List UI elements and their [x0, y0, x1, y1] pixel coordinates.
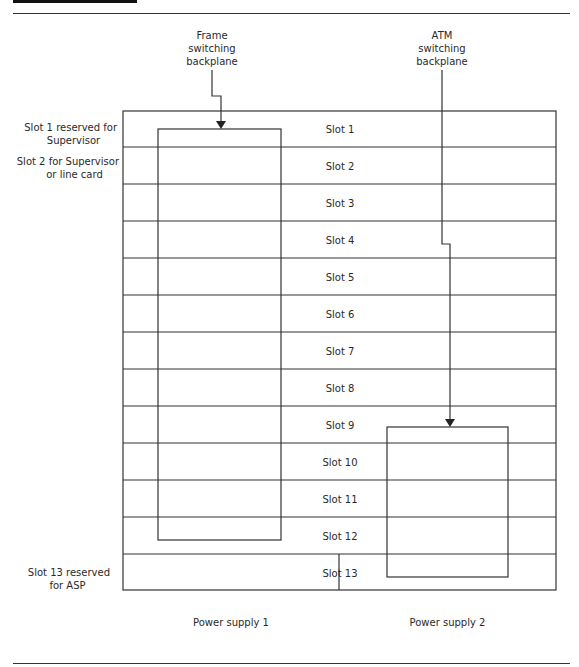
note-line: Slot 1 reserved for [0, 121, 117, 134]
frame-label-line: Frame [182, 29, 242, 42]
slot-label: Slot 1 [300, 123, 380, 136]
slot2-note: Slot 2 for Supervisor or line card [0, 155, 119, 181]
slot-label: Slot 10 [300, 456, 380, 469]
frame-backplane-label: Frame switching backplane [182, 29, 242, 68]
slot-label: Slot 12 [300, 530, 380, 543]
frame-label-line: backplane [182, 55, 242, 68]
slot-label: Slot 11 [300, 493, 380, 506]
note-line: for ASP [0, 579, 110, 592]
slot-label: Slot 8 [300, 382, 380, 395]
atm-backplane-label: ATM switching backplane [412, 29, 472, 68]
atm-connector-line [442, 70, 450, 420]
frame-arrow-icon [216, 121, 226, 129]
frame-backplane-box [158, 129, 281, 540]
slot-label: Slot 4 [300, 234, 380, 247]
note-line: Slot 13 reserved [0, 566, 110, 579]
atm-label-line: switching [412, 42, 472, 55]
slot-label: Slot 9 [300, 419, 380, 432]
slot-label: Slot 3 [300, 197, 380, 210]
slot1-note: Slot 1 reserved for Supervisor [0, 121, 117, 147]
slot-label: Slot 7 [300, 345, 380, 358]
slot13-note: Slot 13 reserved for ASP [0, 566, 110, 592]
note-line: Supervisor [0, 134, 117, 147]
frame-label-line: switching [182, 42, 242, 55]
frame-connector-line [212, 70, 221, 122]
slot-label: Slot 13 [300, 567, 380, 580]
slot-label: Slot 2 [300, 160, 380, 173]
slot-label: Slot 5 [300, 271, 380, 284]
slot-label: Slot 6 [300, 308, 380, 321]
power-supply-1-label: Power supply 1 [123, 616, 339, 629]
atm-label-line: ATM [412, 29, 472, 42]
atm-arrow-icon [445, 419, 455, 427]
atm-label-line: backplane [412, 55, 472, 68]
note-line: Slot 2 for Supervisor [0, 155, 119, 168]
power-supply-2-label: Power supply 2 [339, 616, 556, 629]
note-line: or line card [0, 168, 119, 181]
